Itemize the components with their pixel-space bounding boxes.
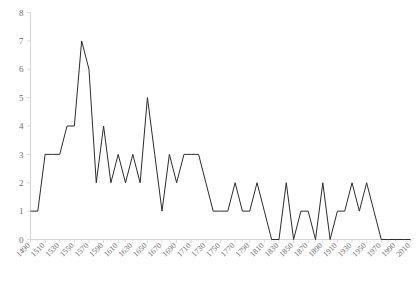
- x-tick-label: 1770: [219, 241, 237, 259]
- x-tick-label: 1910: [321, 241, 339, 259]
- x-tick-label: 1990: [380, 241, 398, 259]
- y-tick-label: 8: [19, 8, 24, 18]
- y-tick-label: 2: [19, 178, 24, 188]
- series-line-count: [31, 41, 411, 240]
- x-tick-label: 1690: [160, 241, 178, 259]
- x-tick-label: 1630: [117, 241, 135, 259]
- x-axis: 1490151015301550157015901610163016501670…: [14, 240, 412, 259]
- x-tick-label: 1750: [204, 241, 222, 259]
- y-axis: 012345678: [19, 8, 31, 245]
- y-tick-label: 7: [19, 36, 24, 46]
- x-tick-label: 1790: [233, 241, 251, 259]
- x-tick-label: 1710: [175, 241, 193, 259]
- x-tick-label: 1510: [29, 241, 47, 259]
- y-tick-label: 4: [19, 121, 24, 131]
- x-tick-label: 1530: [43, 241, 61, 259]
- chart-canvas: 012345678 149015101530155015701590161016…: [0, 0, 419, 285]
- x-tick-label: 2010: [394, 241, 412, 259]
- x-tick-label: 1930: [336, 241, 354, 259]
- y-tick-label: 3: [19, 150, 24, 160]
- x-tick-label: 1670: [146, 241, 164, 259]
- y-tick-label: 5: [19, 93, 24, 103]
- x-tick-label: 1610: [102, 241, 120, 259]
- x-tick-label: 1590: [87, 241, 105, 259]
- x-tick-label: 1570: [73, 241, 91, 259]
- y-tick-label: 6: [19, 64, 24, 74]
- x-tick-label: 1870: [292, 241, 310, 259]
- x-tick-label: 1550: [58, 241, 76, 259]
- x-tick-label: 1970: [365, 241, 383, 259]
- y-tick-label: 1: [19, 206, 24, 216]
- x-tick-label: 1490: [14, 241, 32, 259]
- x-tick-label: 1810: [248, 241, 266, 259]
- x-tick-label: 1850: [277, 241, 295, 259]
- x-tick-label: 1650: [131, 241, 149, 259]
- line-chart: 012345678 149015101530155015701590161016…: [0, 0, 419, 285]
- x-tick-label: 1830: [263, 241, 281, 259]
- x-tick-label: 1730: [190, 241, 208, 259]
- x-tick-label: 1890: [307, 241, 325, 259]
- data-series: [31, 41, 411, 240]
- x-tick-label: 1950: [350, 241, 368, 259]
